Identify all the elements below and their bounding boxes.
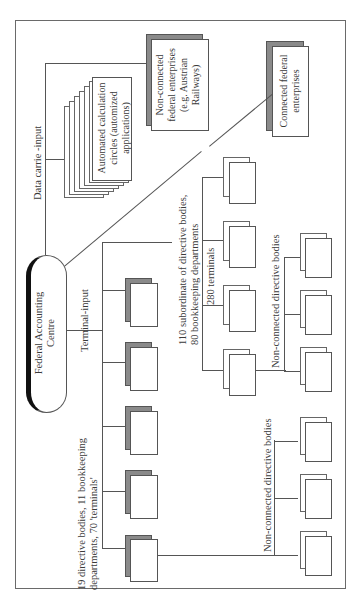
nc-box xyxy=(305,422,332,462)
subordinate-group-label: 110 subordinate of directive bodies, 80 … xyxy=(177,195,201,345)
automated-calculation-label: Automated calculation circles (automized… xyxy=(96,77,132,179)
centre-label-line1: Federal Accounting xyxy=(33,273,45,393)
upper-nonconnected-label: Non-connected directive bodies xyxy=(270,234,282,368)
directive-group-label: 19 directive bodies, 11 bookkeeping depa… xyxy=(76,438,100,590)
subordinate-group-connector xyxy=(102,242,172,243)
data-carrier-auto-connector xyxy=(45,159,65,160)
directive-box xyxy=(130,475,158,519)
terminal-input-label: Terminal-input xyxy=(79,289,91,352)
nce-line3: (e.g. Austrian xyxy=(178,42,190,128)
nc-box xyxy=(305,238,332,278)
nc-box xyxy=(305,536,332,576)
directive-box xyxy=(130,347,158,391)
directive-line1: 19 directive bodies, 11 bookkeeping xyxy=(76,438,88,590)
nc-box xyxy=(305,295,332,335)
centre-label: Federal Accounting Centre xyxy=(33,273,57,393)
nce-line4: Railways) xyxy=(190,42,202,128)
directive-box xyxy=(130,283,158,327)
directive-line2: departments, 70 'terminals' xyxy=(88,438,100,590)
connected-enterprises-label: Connected federal enterprises xyxy=(278,48,302,134)
automated-line2: circles (automized xyxy=(108,77,120,179)
directive-box xyxy=(130,539,158,582)
subordinate-box xyxy=(229,354,256,396)
branch xyxy=(274,441,298,442)
automated-line1: Automated calculation xyxy=(96,77,108,179)
subordinate-box xyxy=(229,162,256,204)
subordinate-line1: 110 subordinate of directive bodies, xyxy=(177,195,189,345)
branch xyxy=(274,498,298,499)
lower-nonconnected-connector xyxy=(158,555,280,556)
terminals-280-label: 280 terminals xyxy=(205,248,217,305)
directive-group-spine xyxy=(102,242,103,548)
subordinate-box xyxy=(229,226,256,268)
nc-box xyxy=(305,352,332,392)
nce-line2: federal enterprises xyxy=(166,42,178,128)
lower-nonconnected-label: Non-connected directive bodies xyxy=(262,418,274,552)
directive-box xyxy=(130,411,158,455)
ce-line2: enterprises xyxy=(290,48,302,134)
nc-box xyxy=(305,479,332,519)
non-connected-enterprises-label: Non-connected federal enterprises (e.g. … xyxy=(154,42,202,128)
upper-nonconnected-connector xyxy=(256,370,286,371)
automated-line3: applications) xyxy=(120,77,132,179)
subordinate-line2: 80 bookkeeping departments xyxy=(189,195,201,345)
branch xyxy=(274,555,298,556)
subordinate-box xyxy=(229,290,256,332)
data-carrier-label: Data carrie -input xyxy=(32,126,44,200)
data-carrier-top-connector xyxy=(45,63,150,64)
ce-line1: Connected federal xyxy=(278,48,290,134)
subordinate-group-spine xyxy=(202,177,203,371)
nce-line1: Non-connected xyxy=(154,42,166,128)
centre-label-line2: Centre xyxy=(45,273,57,393)
